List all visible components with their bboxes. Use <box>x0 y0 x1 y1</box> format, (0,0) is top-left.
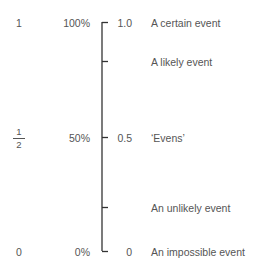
fraction-denominator: 2 <box>16 139 21 150</box>
fraction-label-half: 1 2 <box>12 127 26 150</box>
decimal-label-evens: 0.5 <box>106 132 132 144</box>
description-certain: A certain event <box>151 17 220 29</box>
description-impossible: An impossible event <box>151 246 245 258</box>
decimal-label-certain: 1.0 <box>106 17 132 29</box>
fraction-numerator: 1 <box>16 126 21 137</box>
percent-label-impossible: 0% <box>50 246 90 258</box>
description-evens: ‘Evens’ <box>151 132 185 144</box>
fraction-label-certain: 1 <box>12 17 26 29</box>
percent-label-evens: 50% <box>50 132 90 144</box>
description-likely: A likely event <box>151 56 212 68</box>
decimal-label-impossible: 0 <box>106 246 132 258</box>
fraction-label-impossible: 0 <box>12 246 26 258</box>
description-unlikely: An unlikely event <box>151 202 230 214</box>
percent-label-certain: 100% <box>50 17 90 29</box>
